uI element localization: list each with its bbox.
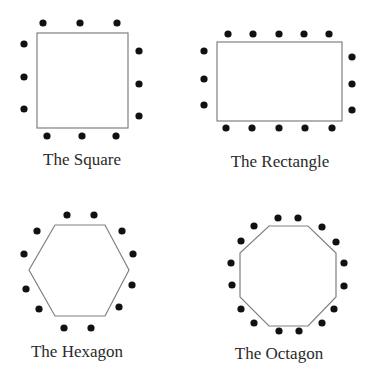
octagon-seat-dot <box>274 214 281 221</box>
hexagon-seat-dot <box>22 285 29 292</box>
hexagon-seat-dot <box>129 250 136 257</box>
octagon-seat-dot <box>275 327 282 334</box>
octagon-seat-dot <box>332 238 339 245</box>
rectangle-seat-dot <box>200 47 207 54</box>
octagon-seat-dot <box>237 237 244 244</box>
rectangle-seat-dot <box>275 30 282 37</box>
hexagon-seat-dot <box>33 227 40 234</box>
label-octagon: The Octagon <box>235 344 323 364</box>
octagon-seat-dot <box>330 305 337 312</box>
rectangle-seat-dot <box>275 124 282 131</box>
hexagon-seat-dot <box>63 211 70 218</box>
shapes-layer <box>0 0 372 378</box>
rectangle-seat-dot <box>301 124 308 131</box>
octagon-seat-dot <box>340 259 347 266</box>
octagon-seat-dot <box>295 327 302 334</box>
square-seat-dot <box>112 132 119 139</box>
rectangle-seat-dot <box>222 124 229 131</box>
square-seat-dot <box>76 19 83 26</box>
rectangle-seat-dot <box>249 30 256 37</box>
hexagon-seat-dot <box>115 303 122 310</box>
label-hexagon: The Hexagon <box>31 342 123 362</box>
square-seat-dot <box>20 105 27 112</box>
octagon-seat-dot <box>318 319 325 326</box>
square-seat-dot <box>39 19 46 26</box>
rectangle-seat-dot <box>328 124 335 131</box>
square-seat-dot <box>78 132 85 139</box>
octagon-seat-dot <box>228 281 235 288</box>
rectangle-seat-dot <box>348 106 355 113</box>
octagon-seat-dot <box>340 282 347 289</box>
rectangle-seat-dot <box>248 124 255 131</box>
hexagon-seat-dot <box>118 227 125 234</box>
hexagon-seat-dot <box>128 281 135 288</box>
rectangle-seat-dot <box>200 75 207 82</box>
hexagon-seat-dot <box>87 324 94 331</box>
rectangle-table-outline <box>217 42 342 121</box>
square-seat-dot <box>135 112 142 119</box>
hexagon-seat-dot <box>60 324 67 331</box>
rectangle-seat-dot <box>325 30 332 37</box>
octagon-seat-dot <box>237 305 244 312</box>
octagon-seat-dot <box>227 259 234 266</box>
rectangle-seat-dot <box>200 101 207 108</box>
diagram-canvas: The Square The Rectangle The Hexagon The… <box>0 0 372 378</box>
square-seat-dot <box>43 132 50 139</box>
rectangle-seat-dot <box>300 30 307 37</box>
square-seat-dot <box>113 19 120 26</box>
hexagon-table-outline <box>29 225 129 316</box>
label-rectangle: The Rectangle <box>231 152 330 172</box>
hexagon-seat-dot <box>20 250 27 257</box>
hexagon-seat-dot <box>90 211 97 218</box>
label-square: The Square <box>43 150 121 170</box>
octagon-table-outline <box>240 226 336 326</box>
octagon-seat-dot <box>294 214 301 221</box>
octagon-seat-dot <box>250 222 257 229</box>
square-seat-dot <box>20 73 27 80</box>
square-seat-dot <box>135 80 142 87</box>
square-seat-dot <box>135 47 142 54</box>
octagon-seat-dot <box>318 223 325 230</box>
rectangle-seat-dot <box>224 30 231 37</box>
rectangle-seat-dot <box>348 53 355 60</box>
hexagon-seat-dot <box>35 305 42 312</box>
square-seat-dot <box>20 40 27 47</box>
rectangle-seat-dot <box>348 80 355 87</box>
octagon-seat-dot <box>250 319 257 326</box>
square-table-outline <box>37 33 128 128</box>
